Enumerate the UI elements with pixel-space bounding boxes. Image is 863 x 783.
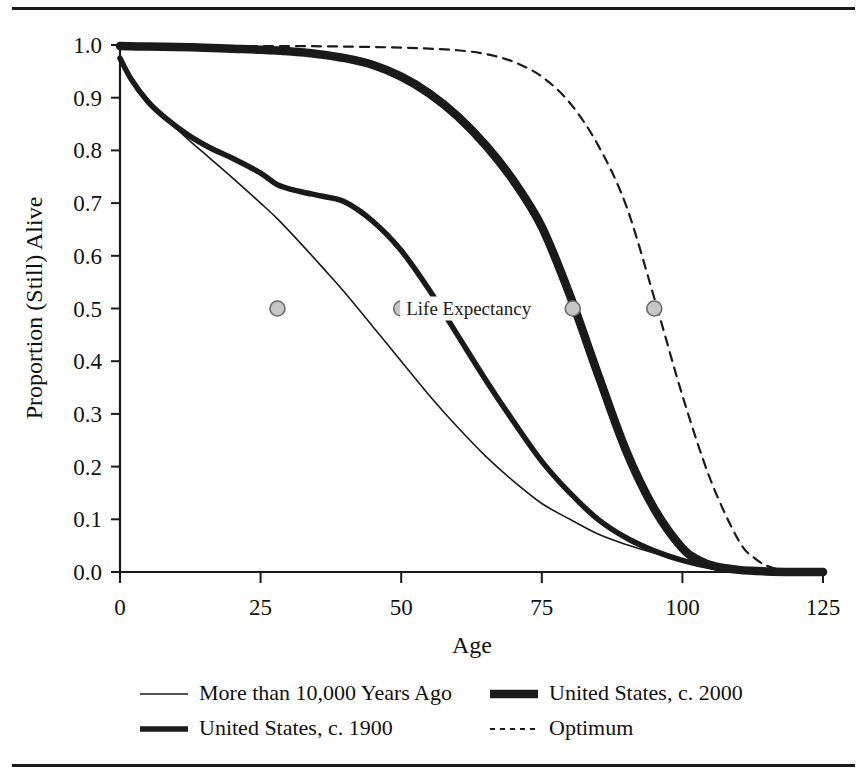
x-tick-label: 25 [249,595,272,620]
legend-label: Optimum [549,715,633,740]
x-axis: 0255075100125 [114,572,840,620]
y-axis: 0.00.10.20.30.40.50.60.70.80.91.0 [73,33,120,585]
legend-label: United States, c. 2000 [549,680,743,705]
y-tick-label: 0.2 [73,455,102,480]
chart-legend: More than 10,000 Years AgoUnited States,… [140,680,743,740]
y-tick-label: 0.9 [73,86,102,111]
y-tick-label: 0.7 [73,191,102,216]
y-tick-label: 0.0 [73,560,102,585]
life-expectancy-marker [647,301,662,316]
chart-annotations: Life Expectancy [400,297,537,321]
survivorship-curve-chart: 0.00.10.20.30.40.50.60.70.80.91.0 025507… [0,0,863,783]
y-tick-label: 0.1 [73,507,102,532]
y-tick-label: 1.0 [73,33,102,58]
x-tick-label: 75 [530,595,553,620]
y-tick-label: 0.3 [73,402,102,427]
x-tick-label: 0 [114,595,126,620]
y-tick-label: 0.6 [73,244,102,269]
legend-label: United States, c. 1900 [199,715,393,740]
x-axis-title: Age [452,632,492,658]
life-expectancy-marker [270,301,285,316]
life-expectancy-annotation: Life Expectancy [406,298,532,319]
x-tick-label: 125 [806,595,841,620]
x-tick-label: 100 [665,595,700,620]
life-expectancy-marker [565,301,580,316]
y-axis-title: Proportion (Still) Alive [21,197,47,420]
x-tick-label: 50 [390,595,413,620]
y-tick-label: 0.4 [73,349,102,374]
legend-label: More than 10,000 Years Ago [199,680,452,705]
figure-container: 0.00.10.20.30.40.50.60.70.80.91.0 025507… [0,0,863,783]
y-tick-label: 0.5 [73,297,102,322]
y-tick-label: 0.8 [73,138,102,163]
